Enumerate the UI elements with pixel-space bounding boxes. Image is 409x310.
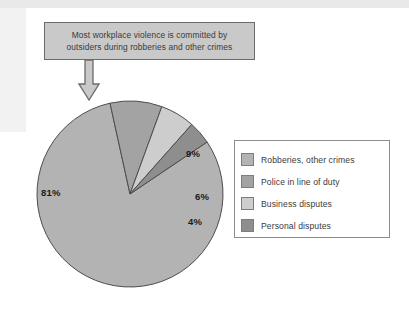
legend-swatch-icon-business: [241, 197, 254, 210]
page-scan-edge-top: [0, 0, 409, 8]
legend-item-police: Police in line of duty: [241, 171, 389, 192]
callout-box: Most workplace violence is committed by …: [44, 22, 255, 60]
pie-chart-figure: Most workplace violence is committed by …: [0, 0, 409, 310]
chart-legend: Robberies, other crimes Police in line o…: [234, 140, 390, 238]
legend-swatch-icon-robberies: [241, 153, 254, 166]
callout-line-2: outsiders during robberies and other cri…: [67, 41, 233, 53]
pie-slice-label-police: 9%: [186, 148, 200, 159]
legend-swatch-icon-personal: [241, 219, 254, 232]
legend-item-business: Business disputes: [241, 193, 389, 214]
pie-slice-label-business: 6%: [195, 191, 209, 202]
legend-item-robberies: Robberies, other crimes: [241, 149, 389, 170]
legend-label-business: Business disputes: [261, 199, 332, 209]
legend-label-police: Police in line of duty: [261, 177, 340, 187]
legend-item-personal: Personal disputes: [241, 215, 389, 236]
pie-slice-label-personal: 4%: [188, 216, 202, 227]
legend-label-robberies: Robberies, other crimes: [261, 155, 355, 165]
page-scan-edge-left-inner: [0, 8, 26, 132]
legend-swatch-icon-police: [241, 175, 254, 188]
legend-label-personal: Personal disputes: [261, 221, 331, 231]
callout-line-1: Most workplace violence is committed by: [72, 29, 228, 41]
pie-slice-label-robberies: 81%: [41, 187, 61, 198]
